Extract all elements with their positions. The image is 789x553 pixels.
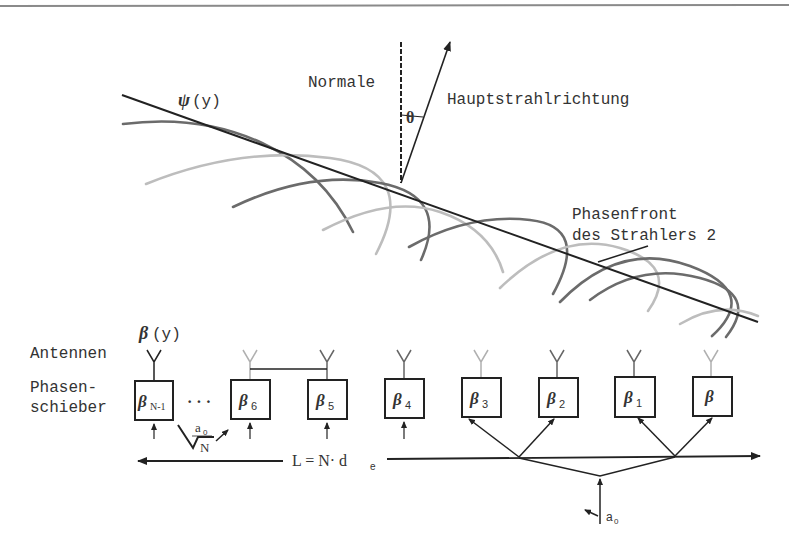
shifter-symbol: β (392, 390, 402, 409)
theta-symbol: θ (406, 109, 414, 126)
phased-array-diagram: ψ (y) Normale Hauptstrahlrichtung θ Phas… (0, 0, 789, 553)
normale-label: Normale (308, 74, 375, 92)
length-subscript: e (370, 461, 376, 472)
a0-top: a (195, 420, 201, 435)
shifter-symbol: β (315, 391, 325, 410)
shifter-symbol: β (238, 391, 248, 410)
input-arrows (154, 422, 404, 439)
phase-shifter-boxes (135, 377, 732, 420)
shifter-symbol: β (623, 388, 633, 407)
phasenfront-label-1: Phasenfront (572, 206, 678, 224)
shifter-subscript: N-1 (150, 401, 166, 412)
phasenfront-label-2: des Strahlers 2 (572, 227, 716, 245)
ellipsis: · · · (187, 393, 211, 410)
phasenschieber-label-1: Phasen- (30, 379, 97, 397)
shifter-symbol: β (137, 392, 147, 411)
psi-argument: (y) (192, 93, 221, 111)
sqrt-n: N (200, 440, 210, 455)
a0-bottom-subscript: 0 (614, 517, 619, 526)
shifter-symbol: β (546, 389, 556, 408)
feed-arrow-right (216, 430, 228, 441)
length-arrow-right (387, 456, 760, 459)
shifter-subscript: 6 (251, 400, 257, 412)
shifter-symbol: β (469, 389, 479, 408)
diagram-canvas: ψ (y) Normale Hauptstrahlrichtung θ Phas… (0, 0, 789, 553)
top-border (0, 5, 789, 6)
shifter-subscript: 4 (405, 399, 411, 411)
length-equation: L = N· d (292, 452, 347, 469)
shifter-subscript: 1 (636, 397, 642, 409)
a0-bottom: a (606, 510, 613, 524)
shifter-subscript: 3 (482, 398, 488, 410)
shifter-subscript: 2 (559, 398, 565, 410)
antennen-label: Antennen (30, 345, 107, 363)
phasenschieber-label-2: schieber (30, 399, 107, 417)
psi-symbol: ψ (178, 90, 191, 110)
hauptstrahl-label: Hauptstrahlrichtung (447, 91, 629, 109)
feed-network (469, 418, 712, 524)
shifter-symbol: β (704, 387, 714, 406)
shifter-subscript: 5 (328, 400, 334, 412)
beta-y-symbol: β (138, 323, 149, 343)
beta-y-argument: (y) (152, 326, 181, 344)
